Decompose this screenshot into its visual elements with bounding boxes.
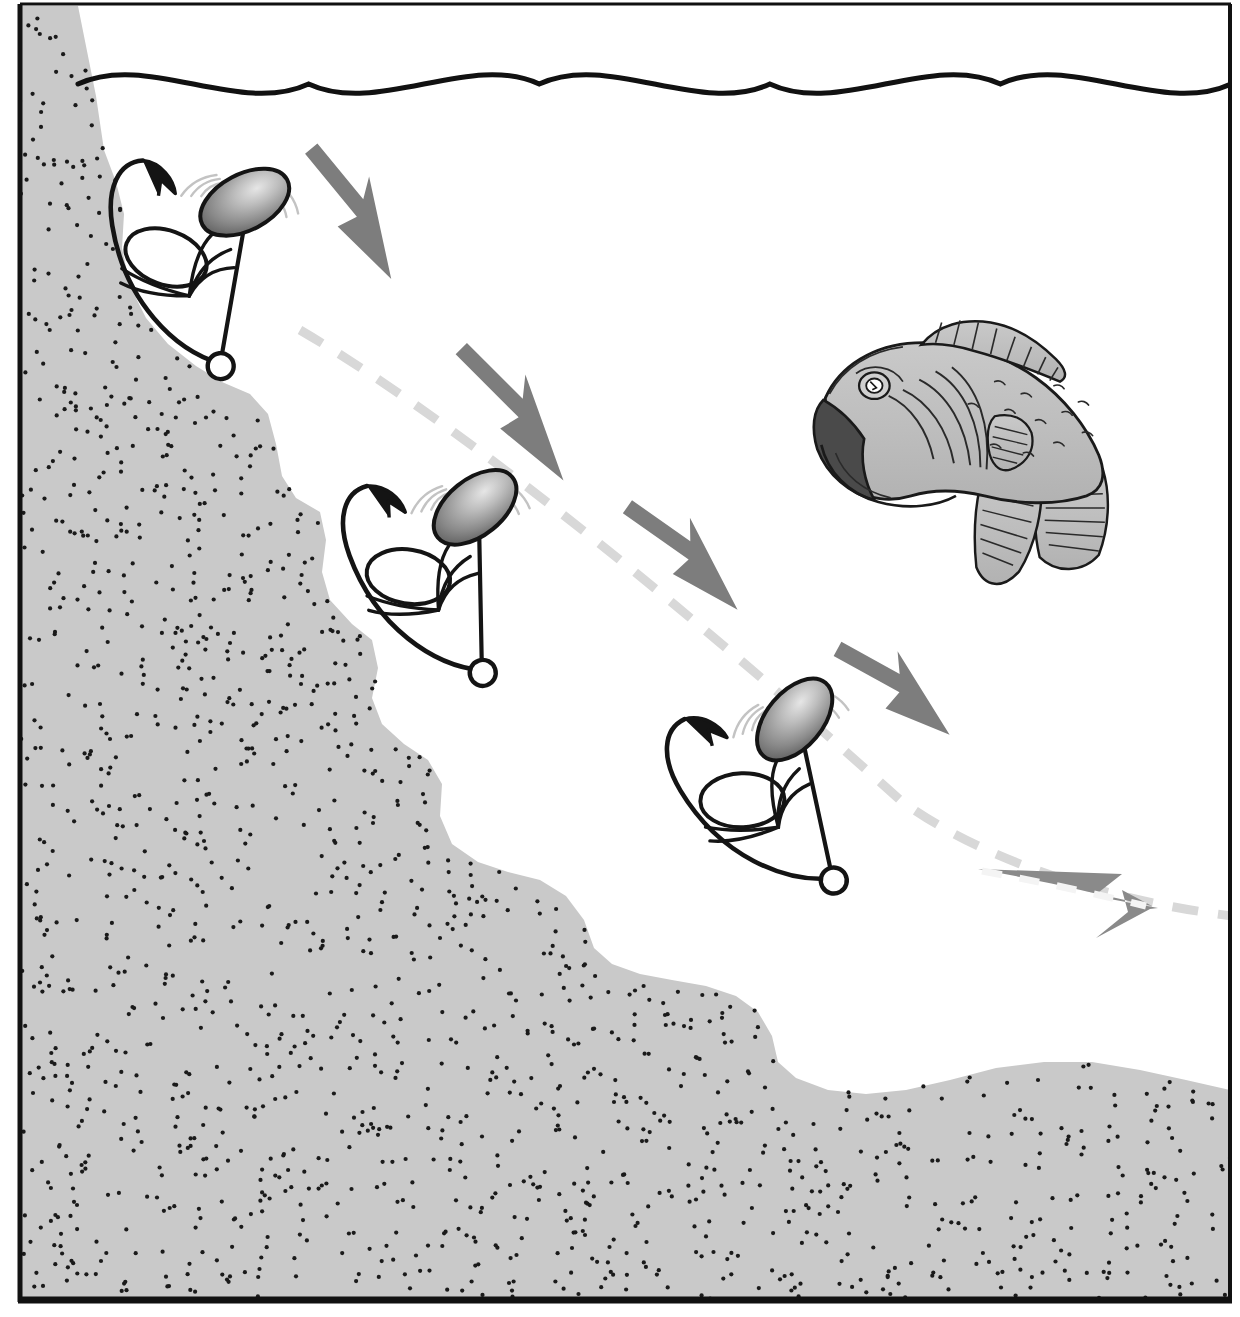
bottom-speckle xyxy=(111,247,115,251)
bottom-speckle xyxy=(49,1186,53,1190)
bottom-speckle xyxy=(996,1271,1000,1275)
bottom-speckle xyxy=(352,1231,356,1235)
bottom-speckle xyxy=(228,573,232,577)
bottom-speckle xyxy=(617,1119,621,1123)
bottom-speckle xyxy=(60,1251,64,1255)
bottom-speckle xyxy=(507,1281,511,1285)
bottom-speckle xyxy=(460,1289,464,1293)
bottom-speckle xyxy=(380,779,384,783)
bottom-speckle xyxy=(1063,1269,1067,1273)
bottom-speckle xyxy=(397,977,401,981)
bottom-speckle xyxy=(121,824,125,828)
bottom-speckle xyxy=(505,1066,509,1070)
bottom-speckle xyxy=(390,1160,394,1164)
bottom-speckle xyxy=(92,665,96,669)
bottom-speckle xyxy=(213,767,217,771)
bottom-speckle xyxy=(701,1190,705,1194)
bottom-speckle xyxy=(729,1272,733,1276)
bottom-speckle xyxy=(370,686,374,690)
bottom-speckle xyxy=(61,52,65,56)
bottom-speckle xyxy=(105,424,109,428)
bottom-speckle xyxy=(308,948,312,952)
bottom-speckle xyxy=(175,1115,179,1119)
bottom-speckle xyxy=(360,1123,364,1127)
bottom-speckle xyxy=(68,530,72,534)
bottom-speckle xyxy=(981,1251,985,1255)
bottom-speckle xyxy=(788,1169,792,1173)
bottom-speckle xyxy=(256,526,260,530)
bottom-speckle xyxy=(1005,1081,1009,1085)
bottom-speckle xyxy=(426,772,430,776)
bottom-speckle xyxy=(289,657,293,661)
bottom-speckle xyxy=(164,1275,168,1279)
bottom-speckle xyxy=(67,313,71,317)
bottom-speckle xyxy=(897,1161,901,1165)
bottom-speckle xyxy=(50,1060,54,1064)
bottom-speckle xyxy=(248,832,252,836)
bottom-speckle xyxy=(556,1113,560,1117)
bottom-speckle xyxy=(131,561,135,565)
bottom-speckle xyxy=(576,1292,580,1296)
bottom-speckle xyxy=(818,1212,822,1216)
bottom-speckle xyxy=(824,1240,828,1244)
bottom-speckle xyxy=(182,836,186,840)
bottom-speckle xyxy=(539,1101,543,1105)
bottom-speckle xyxy=(324,1112,328,1116)
bottom-speckle xyxy=(220,1200,224,1204)
bottom-speckle xyxy=(342,1013,346,1017)
bottom-speckle xyxy=(40,990,44,994)
bottom-speckle xyxy=(176,666,180,670)
bottom-speckle xyxy=(148,807,152,811)
bottom-speckle xyxy=(936,1158,940,1162)
bottom-speckle xyxy=(75,223,79,227)
bottom-speckle xyxy=(99,726,103,730)
bottom-speckle xyxy=(223,985,227,989)
bottom-speckle xyxy=(189,598,193,602)
bottom-speckle xyxy=(184,1070,188,1074)
bottom-speckle xyxy=(197,518,201,522)
bottom-speckle xyxy=(58,605,62,609)
bottom-speckle xyxy=(119,1070,123,1074)
bottom-speckle xyxy=(1079,1129,1083,1133)
bottom-speckle xyxy=(265,1044,269,1048)
bottom-speckle xyxy=(336,1201,340,1205)
bottom-speckle xyxy=(784,1120,788,1124)
bottom-speckle xyxy=(511,1279,515,1283)
bottom-speckle xyxy=(232,631,236,635)
bottom-speckle xyxy=(288,663,292,667)
bottom-speckle xyxy=(1116,1191,1120,1195)
bottom-speckle xyxy=(182,397,186,401)
bottom-speckle xyxy=(129,734,133,738)
bottom-speckle xyxy=(267,1012,271,1016)
bottom-speckle xyxy=(196,528,200,532)
bottom-speckle xyxy=(554,929,558,933)
bottom-speckle xyxy=(1038,1217,1042,1221)
bottom-speckle xyxy=(191,993,195,997)
bottom-speckle xyxy=(946,1287,950,1291)
bottom-speckle xyxy=(192,935,196,939)
bottom-speckle xyxy=(312,602,316,606)
bottom-speckle xyxy=(982,1093,986,1097)
bottom-speckle xyxy=(52,158,56,162)
bottom-speckle xyxy=(538,1185,542,1189)
bottom-speckle xyxy=(85,430,89,434)
bottom-speckle xyxy=(73,531,77,535)
bottom-speckle xyxy=(111,360,115,364)
bottom-speckle xyxy=(404,1157,408,1161)
bottom-speckle xyxy=(281,1153,285,1157)
bottom-speckle xyxy=(100,626,104,630)
bottom-speckle xyxy=(95,156,99,160)
bottom-speckle xyxy=(243,1270,247,1274)
bottom-speckle xyxy=(78,296,82,300)
bottom-speckle xyxy=(296,530,300,534)
bottom-speckle xyxy=(63,407,67,411)
bottom-speckle xyxy=(647,1052,651,1056)
bottom-speckle xyxy=(25,757,29,761)
bottom-speckle xyxy=(67,693,71,697)
bottom-speckle xyxy=(360,1110,364,1114)
bottom-speckle xyxy=(303,561,307,565)
bottom-speckle xyxy=(50,954,54,958)
bottom-speckle xyxy=(132,888,136,892)
bottom-speckle xyxy=(116,971,120,975)
bottom-speckle xyxy=(494,1075,498,1079)
